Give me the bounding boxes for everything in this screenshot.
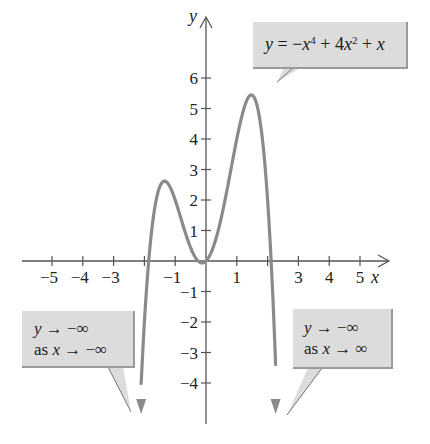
callout-line: y → −∞ xyxy=(304,317,391,338)
eq-y: y xyxy=(265,34,273,54)
callout-line: as x → ∞ xyxy=(304,338,391,359)
x-tick-label: −3 xyxy=(102,268,120,287)
x-tick-label: 3 xyxy=(294,268,303,287)
var: y xyxy=(34,319,42,338)
x-axis-label: x xyxy=(370,267,379,287)
text: → ∞ xyxy=(330,339,368,358)
text: as xyxy=(34,340,52,359)
eq-x2: x xyxy=(344,34,352,54)
eq-part: + xyxy=(357,34,376,54)
eq-exp2: 2 xyxy=(352,34,358,46)
y-tick-label: −1 xyxy=(180,283,198,302)
y-tick-label: 5 xyxy=(190,100,199,119)
callout-line: as x → −∞ xyxy=(34,339,133,360)
left-end-arrowhead-icon xyxy=(136,399,146,414)
eq-exp1: 4 xyxy=(310,34,316,46)
y-tick-label: 1 xyxy=(190,222,199,241)
y-tick-label: 3 xyxy=(190,161,199,180)
y-axis-label: y xyxy=(187,6,197,26)
var: x xyxy=(52,340,60,359)
eq-x3: x xyxy=(377,34,385,54)
left-end-behavior-callout: y → −∞ as x → −∞ xyxy=(22,311,135,368)
right-end-arrowhead-icon xyxy=(271,399,281,414)
x-tick-label: 1 xyxy=(233,268,242,287)
x-tick-label: 5 xyxy=(356,268,365,287)
right-pointer-edge xyxy=(287,368,322,415)
right-end-behavior-callout: y → −∞ as x → ∞ xyxy=(293,309,393,369)
var: y xyxy=(304,318,312,337)
y-tick-label: 2 xyxy=(190,191,199,210)
y-tick-label: 6 xyxy=(190,69,199,88)
var: x xyxy=(322,339,330,358)
y-tick-label: −3 xyxy=(180,344,198,363)
x-tick-label: −1 xyxy=(163,268,181,287)
x-tick-label: −4 xyxy=(71,268,90,287)
equation-callout-pointer xyxy=(277,68,300,82)
y-tick-label: −4 xyxy=(180,374,199,393)
x-tick-label: 4 xyxy=(325,268,334,287)
text: → −∞ xyxy=(60,340,107,359)
equation-callout: y = −x4 + 4x2 + x xyxy=(253,22,408,69)
text: → −∞ xyxy=(312,318,359,337)
text: as xyxy=(304,339,322,358)
y-tick-label: −2 xyxy=(180,313,198,332)
eq-part: + 4 xyxy=(316,34,344,54)
text: → −∞ xyxy=(42,319,89,338)
callout-line: y → −∞ xyxy=(34,318,133,339)
function-curve xyxy=(141,95,275,384)
eq-part: = − xyxy=(273,34,302,54)
x-tick-label: −5 xyxy=(40,268,58,287)
y-tick-label: 4 xyxy=(190,130,199,149)
